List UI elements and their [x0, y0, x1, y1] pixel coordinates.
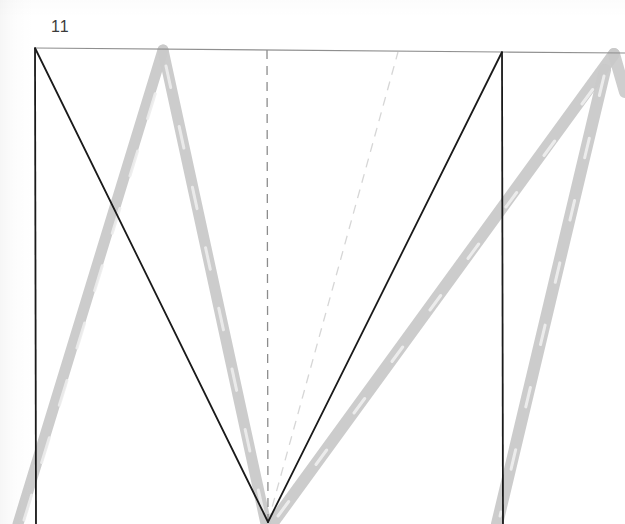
figure-canvas: 11	[0, 0, 625, 524]
black-v-right-leg	[268, 52, 502, 522]
black-v-left-leg	[35, 48, 268, 522]
figure-number-label: 11	[51, 19, 70, 35]
frame-left-edge	[35, 48, 36, 524]
frame-top-rule	[35, 48, 625, 53]
gray-trace-center-fall	[163, 50, 266, 524]
dashed-line-group	[267, 50, 398, 522]
dashed-center-vertical	[267, 50, 268, 522]
gray-trace-right-apex	[614, 54, 625, 92]
frame-right-edge	[502, 52, 503, 524]
line-drawing-svg	[0, 0, 625, 524]
gray-trace-group	[18, 50, 625, 524]
black-ink-group	[35, 48, 503, 524]
dashed-diagonal-light	[268, 52, 398, 522]
gray-trace-left-rise	[18, 50, 163, 524]
